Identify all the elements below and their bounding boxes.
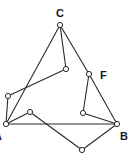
edge-n3-n5 [30, 112, 82, 150]
node-n4 [80, 110, 85, 115]
edge-n1-n2 [8, 69, 66, 96]
node-n3 [27, 109, 32, 114]
node-n5 [79, 147, 84, 152]
edge-C-A [6, 25, 60, 124]
node-label-B: B [120, 130, 128, 142]
node-B [114, 121, 119, 126]
edge-n5-B [82, 124, 117, 150]
node-label-F: F [100, 69, 107, 81]
node-label-C: C [56, 7, 64, 19]
graph-diagram: CFAB [0, 0, 131, 165]
edge-F-n4 [83, 74, 89, 113]
node-label-A: A [0, 130, 2, 142]
node-F [86, 71, 91, 76]
node-C [57, 22, 62, 27]
node-n2 [5, 93, 10, 98]
node-A [3, 121, 8, 126]
nodes-group [3, 22, 119, 152]
edges-group [6, 25, 117, 150]
edge-C-n1 [60, 25, 66, 69]
node-n1 [63, 66, 68, 71]
